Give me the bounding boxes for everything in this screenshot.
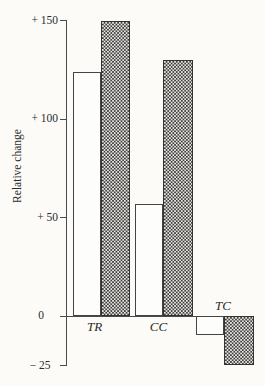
y-axis-line (66, 21, 67, 366)
bar-open-CC (135, 204, 163, 316)
bar-stipple-TC (224, 316, 254, 365)
bar-stipple-TR (101, 21, 130, 317)
y-tick-mark (60, 217, 67, 218)
y-tick-label: + 50 (37, 210, 58, 224)
y-axis-title: Relative change (9, 116, 25, 216)
y-tick-label: 0 (38, 308, 44, 322)
category-label-TR: TR (87, 320, 102, 334)
bar-open-TC (196, 316, 224, 336)
y-tick-label: + 150 (31, 13, 58, 27)
bar-open-TR (73, 72, 101, 316)
y-tick-mark (60, 365, 67, 366)
relative-change-bar-chart: Relative change + 150+ 100+ 500− 25 TRCC… (0, 0, 265, 386)
category-label-CC: CC (150, 320, 167, 334)
y-tick-mark (60, 119, 67, 120)
y-tick-label: + 100 (31, 111, 58, 125)
bar-stipple-CC (163, 60, 193, 316)
y-tick-mark (60, 20, 67, 21)
category-label-TC: TC (215, 299, 231, 313)
y-tick-label: − 25 (30, 358, 51, 372)
